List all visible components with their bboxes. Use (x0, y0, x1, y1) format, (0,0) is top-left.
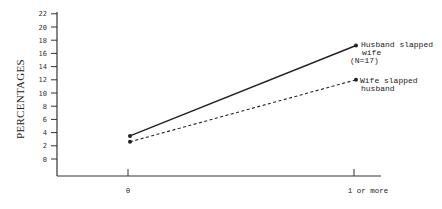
data-point (354, 78, 358, 82)
y-tick-label-14: 14 (39, 63, 47, 71)
x-tick-label-1: 1 or more (348, 187, 389, 195)
y-axis-ticks: 0246810121416182022 (39, 10, 57, 163)
series-group (128, 43, 358, 143)
y-tick-label-18: 18 (39, 37, 47, 45)
y-tick-label-6: 6 (43, 116, 47, 124)
series-wife-slapped-husband (128, 78, 358, 144)
y-axis-label: PERCENTAGES (14, 59, 26, 139)
data-point (354, 43, 358, 47)
y-tick-label-22: 22 (39, 10, 47, 18)
y-tick-label-0: 0 (43, 156, 47, 164)
data-point (128, 134, 132, 138)
series-line (130, 80, 356, 142)
series-annotations: Husband slapped wife (N=17) Wife slapped… (350, 40, 433, 93)
annotation-wife-line2: husband (361, 84, 395, 93)
y-tick-label-12: 12 (39, 76, 47, 84)
series-line (130, 45, 356, 135)
y-tick-label-4: 4 (43, 129, 47, 137)
annotation-husband-line3: (N=17) (350, 56, 379, 65)
y-tick-label-20: 20 (39, 24, 47, 32)
y-tick-label-10: 10 (39, 90, 47, 98)
x-tick-label-0: 0 (126, 187, 131, 195)
axes (57, 12, 381, 176)
y-tick-label-8: 8 (43, 103, 47, 111)
x-axis-ticks: 0 1 or more (126, 169, 389, 195)
line-chart: PERCENTAGES 0246810121416182022 0 1 or m… (0, 0, 442, 209)
data-point (128, 140, 132, 144)
y-tick-label-16: 16 (39, 50, 47, 58)
series-husband-slapped-wife (128, 43, 358, 137)
y-tick-label-2: 2 (43, 142, 47, 150)
